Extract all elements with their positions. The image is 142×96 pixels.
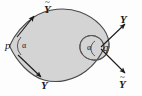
tilde-accent-icon: ~ [45, 0, 50, 7]
vector-label-Y-tilde-upper-left: ~ Y [44, 4, 51, 15]
point-label-q: q [103, 42, 109, 53]
vector-label-Y-upper-right: Y [120, 14, 127, 25]
angle-label-alpha-left: α [22, 42, 26, 50]
figure-container: p q α α ~ Y Y Y ~ Y [0, 0, 142, 96]
point-label-p: p [5, 40, 11, 51]
tilde-accent-icon: ~ [120, 73, 125, 82]
vector-label-Y-lower-left: Y [41, 80, 48, 91]
vector-label-text: Y [41, 79, 48, 91]
angle-label-alpha-right: α [87, 44, 91, 52]
vector-label-Y-tilde-lower-right: ~ Y [119, 79, 126, 90]
vector-label-text: Y [120, 13, 127, 25]
